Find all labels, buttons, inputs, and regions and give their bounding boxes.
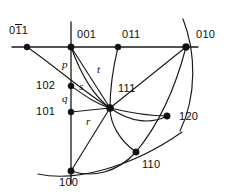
arc-111-to-120 xyxy=(110,108,167,116)
label-100: 100 xyxy=(59,177,78,188)
stereographic-projection-diagram: 011 001 011 010 102 101 111 120 110 100 … xyxy=(0,0,228,194)
node-010[interactable] xyxy=(183,44,190,51)
label-011: 011 xyxy=(122,29,140,40)
label-111: 111 xyxy=(118,83,136,94)
segment-111-to-100 xyxy=(71,108,110,171)
label-0bar11: 011 xyxy=(9,24,28,36)
label-101: 101 xyxy=(36,106,55,117)
edge-label-t: t xyxy=(97,64,100,75)
node-120[interactable] xyxy=(164,113,170,119)
label-001: 001 xyxy=(77,29,96,40)
node-110[interactable] xyxy=(133,149,139,155)
edge-label-p: p xyxy=(62,59,68,70)
segment-111-to-010 xyxy=(110,47,186,108)
label-0bar11-tail: 1 xyxy=(22,24,28,36)
node-111[interactable] xyxy=(106,104,113,111)
node-001[interactable] xyxy=(68,44,74,50)
label-010: 010 xyxy=(196,29,215,40)
arc-0bar11-to-111 xyxy=(27,47,110,108)
node-0bar11[interactable] xyxy=(24,44,30,50)
node-102[interactable] xyxy=(68,83,74,89)
arc-011-through-111-to-110 xyxy=(110,47,136,152)
label-102: 102 xyxy=(36,80,55,91)
edge-label-r: r xyxy=(86,116,90,127)
segment-101-to-111 xyxy=(71,108,110,112)
node-100[interactable] xyxy=(68,168,74,174)
edge-label-q: q xyxy=(62,93,68,104)
label-110: 110 xyxy=(142,159,160,170)
node-101[interactable] xyxy=(68,109,74,115)
label-120: 120 xyxy=(179,111,198,122)
diagram-canvas xyxy=(0,0,228,194)
node-011[interactable] xyxy=(115,44,121,50)
edge-label-s: s xyxy=(79,81,83,92)
